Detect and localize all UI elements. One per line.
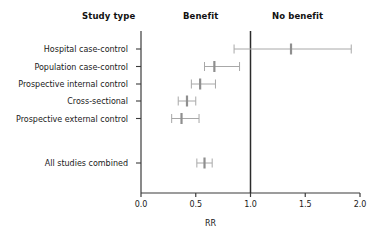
x-tick-label: 2.0 <box>354 200 367 209</box>
forest-row <box>136 61 240 72</box>
x-tick-label: 0.5 <box>189 200 202 209</box>
header-study-type: Study type <box>82 11 135 21</box>
row-label-column: Hospital case-controlPopulation case-con… <box>0 0 134 240</box>
forest-row <box>136 79 215 90</box>
x-tick-label: 1.0 <box>244 200 257 209</box>
row-label-all-studies-combined: All studies combined <box>45 159 128 168</box>
x-axis-label: RR <box>0 219 387 228</box>
row-label-population-case-control: Population case-control <box>34 62 128 71</box>
row-label-hospital-case-control: Hospital case-control <box>44 45 128 54</box>
forest-row <box>136 158 212 169</box>
forest-row <box>136 44 351 55</box>
header-no-benefit: No benefit <box>272 11 323 21</box>
forest-row <box>136 96 196 107</box>
row-label-cross-sectional: Cross-sectional <box>67 97 128 106</box>
forest-row <box>136 113 199 124</box>
header-benefit: Benefit <box>183 11 218 21</box>
x-tick-label: 1.5 <box>299 200 312 209</box>
row-label-prospective-internal-control: Prospective internal control <box>18 80 128 89</box>
row-label-prospective-external-control: Prospective external control <box>16 114 128 123</box>
x-tick-label: 0.0 <box>135 200 148 209</box>
